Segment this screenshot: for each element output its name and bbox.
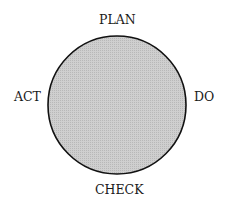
label-do: DO [194, 91, 214, 104]
label-plan: PLAN [99, 14, 136, 27]
label-act: ACT [14, 91, 41, 104]
pdca-cycle-diagram: PLAN DO ACT CHECK [0, 0, 226, 204]
label-check: CHECK [95, 184, 144, 197]
cycle-circle [48, 36, 186, 174]
